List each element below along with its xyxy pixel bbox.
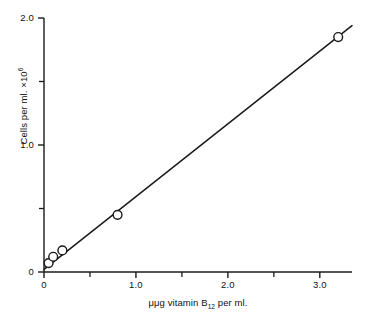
x-tick-label: 3.0 xyxy=(304,279,336,290)
y-tick-label: 2.0 xyxy=(2,12,34,23)
data-point-marker xyxy=(58,246,67,255)
y-axis-title: Cells per ml. ×106 xyxy=(17,31,29,181)
x-tick-label: 2.0 xyxy=(212,279,244,290)
data-point-marker xyxy=(49,252,58,261)
x-axis-title-prefix: μμg vitamin B xyxy=(148,297,207,308)
data-point-marker xyxy=(334,33,343,42)
data-series-group xyxy=(44,26,352,270)
x-axis-subscript: 12 xyxy=(208,303,215,310)
y-axis-title-text: Cells per ml. ×10 xyxy=(18,71,29,144)
x-axis-title: μμg vitamin B12 per ml. xyxy=(44,297,352,310)
y-axis-exponent: 6 xyxy=(17,68,24,72)
x-tick-label: 0 xyxy=(28,279,60,290)
x-axis-title-suffix: per ml. xyxy=(215,297,247,308)
figure-container: 01.02.001.02.03.0 Cells per ml. ×106 μμg… xyxy=(0,0,372,316)
chart-plot-area xyxy=(0,0,372,316)
x-tick-label: 1.0 xyxy=(120,279,152,290)
y-tick-label: 0 xyxy=(2,266,34,277)
axes-group xyxy=(44,18,352,272)
series-trend-line xyxy=(44,26,352,270)
axis-ticks-group xyxy=(38,18,320,278)
data-point-marker xyxy=(113,210,122,219)
